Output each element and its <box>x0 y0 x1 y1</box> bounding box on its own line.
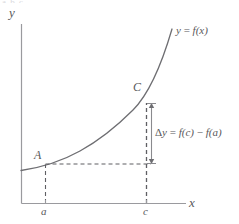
x-tick-label-c: c <box>143 206 148 217</box>
x-tick-label-a: a <box>41 206 47 217</box>
curve-eq-arg: (x) <box>196 24 208 36</box>
point-label-c: C <box>133 81 141 93</box>
delta-equals: = <box>167 126 179 138</box>
y-axis-label: y <box>9 6 15 19</box>
figure-canvas: a b c y x a c A C y = f(x) Δy = f(c) − f… <box>0 0 239 224</box>
delta-arg1: (c) <box>182 126 194 138</box>
curve-eq-equals: = <box>181 24 193 36</box>
delta-minus: − <box>194 126 206 138</box>
point-label-a: A <box>34 149 41 161</box>
delta-arg2: (a) <box>209 126 222 138</box>
x-axis-label: x <box>189 196 195 209</box>
function-curve <box>21 29 172 171</box>
curve-equation-label: y = f(x) <box>176 25 208 36</box>
delta-y-annotation: Δy = f(c) − f(a) <box>155 127 222 138</box>
